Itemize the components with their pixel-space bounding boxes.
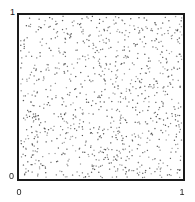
x-axis-tick-label-left: 0 bbox=[15, 187, 23, 197]
y-axis-tick-label-top: 1 bbox=[8, 7, 15, 17]
scatter-plot-figure: 1 0 0 1 bbox=[0, 0, 195, 202]
y-axis-tick-label-bottom: 0 bbox=[7, 171, 14, 181]
scatter-points-canvas bbox=[19, 15, 183, 179]
x-axis-tick-label-right: 1 bbox=[178, 187, 186, 197]
plot-area bbox=[17, 13, 185, 181]
